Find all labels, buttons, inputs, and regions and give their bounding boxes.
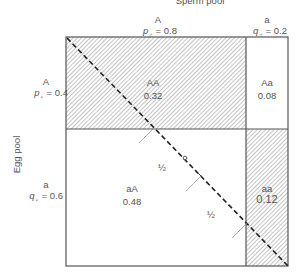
sperm-allele-A: A (146, 14, 170, 25)
sperm-pool-title: Sperm pool (150, 0, 250, 6)
cell-aA-genotype: aA (117, 183, 147, 194)
cell-AA-genotype: AA (138, 77, 168, 88)
cell-aA-value: 0.48 (112, 196, 152, 207)
tick-pointer-2 (186, 176, 201, 191)
sperm-freq-q: q♂ = 0.2 (240, 25, 300, 41)
cell-Aa-genotype: Aa (252, 77, 282, 88)
tick-pointer-1 (139, 128, 154, 143)
cell-AA-value: 0.32 (133, 90, 173, 101)
sperm-freq-p: p♂ = 0.8 (130, 25, 190, 41)
half-label-1: ½ (155, 162, 169, 173)
sperm-allele-a: a (255, 14, 279, 25)
cell-Aa-value: 0.08 (247, 90, 287, 101)
midpoint-marker (183, 156, 187, 160)
tick-pointer-3 (232, 223, 247, 238)
half-label-2: ½ (204, 209, 218, 220)
cell-aa-value: 0.12 (247, 194, 287, 205)
egg-allele-A: A (34, 76, 58, 87)
egg-pool-axis-label: Egg pool (11, 135, 22, 175)
egg-allele-a: a (34, 179, 58, 190)
egg-freq-q: q♀ = 0.6 (3, 190, 63, 206)
egg-freq-p: p♀ = 0.4 (8, 87, 68, 103)
punnett-square-graphic (0, 0, 302, 280)
